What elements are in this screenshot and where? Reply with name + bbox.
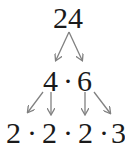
prime-factor-1: 2 (6, 118, 21, 148)
prime-factor-4: 3 (111, 118, 125, 148)
prime-factor-2: 2 (42, 118, 57, 148)
factor-6: 6 (77, 66, 92, 96)
multiply-dot: · (63, 66, 73, 96)
factor-4: 4 (43, 66, 58, 96)
multiply-dot: · (99, 118, 109, 148)
arrow-4-to-2a (28, 92, 43, 112)
multiply-dot: · (27, 118, 37, 148)
multiply-dot: · (63, 118, 73, 148)
arrow-24-to-6 (69, 32, 82, 60)
arrow-6-to-3 (94, 92, 110, 113)
prime-factor-3: 2 (78, 118, 93, 148)
arrow-24-to-4 (56, 32, 69, 60)
